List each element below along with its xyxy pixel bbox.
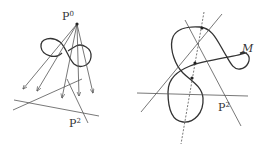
left-panel: P0 P2 <box>13 10 99 130</box>
curve-m <box>168 27 249 122</box>
point-p0 <box>75 22 78 25</box>
p0-label: P0 <box>62 10 74 23</box>
m-label: M <box>241 42 254 55</box>
right-panel: M P2 <box>137 12 254 144</box>
left-p2-label: P2 <box>69 117 81 130</box>
diagram: P0 P2 M P2 <box>0 0 266 151</box>
projection-rays <box>23 24 93 98</box>
right-p2-label: P2 <box>218 101 230 114</box>
plane-lines <box>137 14 248 126</box>
